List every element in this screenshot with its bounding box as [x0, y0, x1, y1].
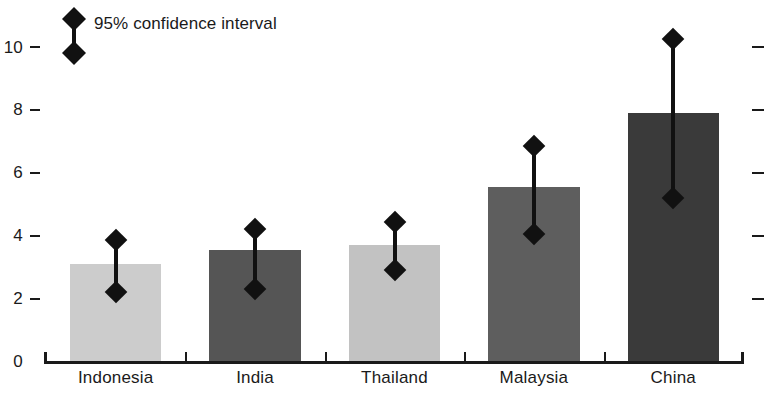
- legend-ci-diamond-bottom: [62, 41, 86, 65]
- ci-diamond-upper-thailand: [383, 210, 406, 233]
- y-axis-tick-label: 6: [13, 164, 23, 181]
- bar-chart: 0246810 IndonesiaIndiaThailandMalaysiaCh…: [0, 0, 783, 400]
- x-axis-label-china: China: [604, 368, 743, 388]
- error-bar-malaysia: [532, 146, 536, 234]
- ci-diamond-upper-china: [662, 28, 685, 51]
- legend-ci-label: 95% confidence interval: [94, 14, 277, 34]
- y-axis-right-stub: [741, 352, 744, 364]
- y-axis-left-stub: [44, 352, 47, 364]
- y-axis-right-tick-10: [752, 46, 764, 48]
- y-axis-tick-label: 4: [13, 227, 23, 244]
- y-axis-right-tick-8: [752, 109, 764, 111]
- y-axis-right-tick-4: [752, 235, 764, 237]
- legend-ci-diamond-top: [62, 7, 86, 31]
- x-axis-label-malaysia: Malaysia: [464, 368, 603, 388]
- ci-diamond-upper-india: [244, 218, 267, 241]
- y-axis-tick-mark: [30, 235, 40, 237]
- y-axis-right-tick-6: [752, 172, 764, 174]
- x-axis-label-thailand: Thailand: [325, 368, 464, 388]
- x-axis-label-indonesia: Indonesia: [46, 368, 185, 388]
- y-axis-tick-mark: [30, 361, 40, 363]
- y-axis-tick-label: 2: [13, 290, 23, 307]
- y-axis-tick-mark: [30, 298, 40, 300]
- y-axis-tick-mark: [30, 46, 40, 48]
- ci-diamond-upper-malaysia: [523, 135, 546, 158]
- legend-ci-marker: [64, 8, 84, 64]
- y-axis-tick-mark: [30, 109, 40, 111]
- y-axis-tick-label: 10: [4, 39, 23, 56]
- y-axis-tick-mark: [30, 172, 40, 174]
- y-axis-right-tick-2: [752, 298, 764, 300]
- y-axis-tick-label: 0: [13, 353, 23, 370]
- x-axis-label-india: India: [185, 368, 324, 388]
- x-axis-baseline: [44, 361, 744, 364]
- error-bar-china: [671, 39, 675, 198]
- y-axis-tick-label: 8: [13, 101, 23, 118]
- ci-diamond-upper-indonesia: [104, 229, 127, 252]
